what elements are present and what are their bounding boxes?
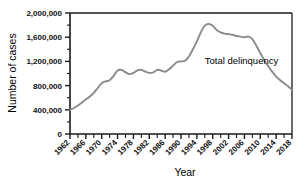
y-tick-label: 1,200,000 — [26, 57, 62, 66]
x-tick-label: 1990 — [163, 138, 182, 157]
x-tick-label: 1970 — [84, 138, 103, 157]
chart-annotations: Total delinquency — [205, 55, 279, 66]
line-chart: 0400,000800,0001,200,0001,600,0002,000,0… — [0, 0, 305, 182]
x-tick-label: 2018 — [274, 138, 293, 157]
x-tick-label: 2010 — [243, 138, 262, 157]
x-tick-label: 2002 — [211, 138, 230, 157]
x-tick-label: 1962 — [52, 138, 71, 157]
x-axis-title: Year — [174, 166, 196, 178]
x-tick-label: 1982 — [132, 138, 151, 157]
data-line-total-delinquency — [70, 24, 292, 110]
x-tick-label: 1986 — [148, 138, 167, 157]
chart-container: 0400,000800,0001,200,0001,600,0002,000,0… — [0, 0, 305, 182]
y-tick-label: 800,000 — [33, 82, 62, 91]
x-tick-label: 1966 — [68, 138, 87, 157]
y-tick-label: 1,600,000 — [26, 33, 62, 42]
x-axis-tick-labels: 1962196619701974197819821986199019941998… — [52, 138, 293, 157]
plot-frame — [70, 13, 292, 134]
y-tick-label: 2,000,000 — [26, 9, 62, 18]
x-tick-label: 2006 — [227, 138, 246, 157]
y-tick-label: 0 — [58, 130, 63, 139]
x-tick-label: 2014 — [259, 138, 278, 157]
y-axis-tick-labels: 0400,000800,0001,200,0001,600,0002,000,0… — [26, 9, 62, 139]
x-tick-label: 1998 — [195, 138, 214, 157]
y-axis-title: Number of cases — [6, 33, 18, 112]
series-annotation-label: Total delinquency — [205, 55, 279, 66]
x-tick-label: 1978 — [116, 138, 135, 157]
x-tick-label: 1994 — [179, 138, 198, 157]
y-tick-label: 400,000 — [33, 106, 62, 115]
data-series-group — [70, 24, 292, 110]
x-tick-label: 1974 — [100, 138, 119, 157]
